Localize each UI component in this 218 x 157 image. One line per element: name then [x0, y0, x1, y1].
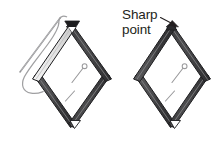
callout-label-line1: Sharp — [122, 7, 158, 22]
illustration-canvas: Sharp point — [0, 0, 218, 157]
sharp-point-illustration: Sharp point — [0, 0, 218, 157]
callout-label-line2: point — [122, 22, 151, 37]
